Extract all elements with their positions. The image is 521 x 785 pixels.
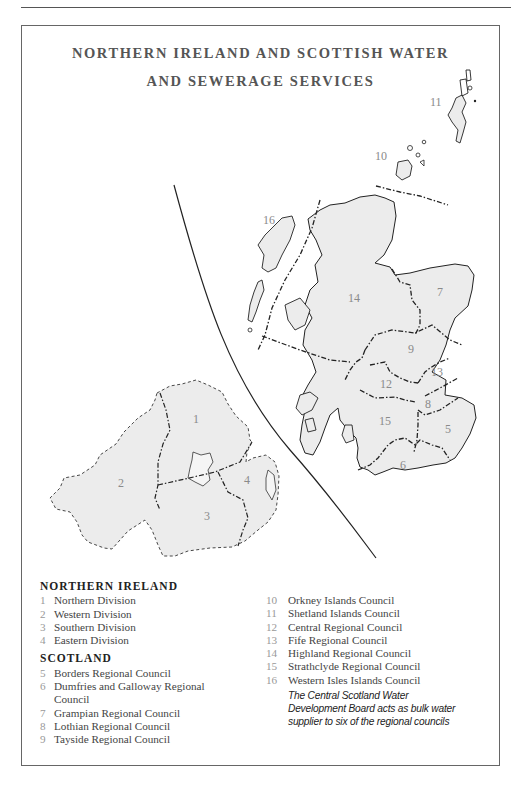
legend-item: 1Northern Division <box>40 594 270 607</box>
legend-item: 5Borders Regional Council <box>40 667 270 680</box>
legend-item: 3Southern Division <box>40 621 270 634</box>
legend-column-2: 10Orkney Islands Council 11Shetland Isla… <box>266 594 486 687</box>
legend-item: 12Central Regional Council <box>266 621 486 634</box>
region-label-13: 13 <box>431 365 443 379</box>
region-label-8: 8 <box>425 397 431 411</box>
region-label-12: 12 <box>380 377 392 391</box>
region-label-1: 1 <box>193 412 199 426</box>
unst <box>466 70 471 81</box>
region-label-10: 10 <box>375 149 387 163</box>
scotland-map <box>262 195 476 475</box>
legend-column-1: NORTHERN IRELAND 1Northern Division 2Wes… <box>40 580 270 747</box>
legend-item: 16Western Isles Islands Council <box>266 674 486 687</box>
yell <box>460 79 468 96</box>
region-label-15: 15 <box>379 414 391 428</box>
isle-arran <box>342 425 354 443</box>
region-label-5: 5 <box>445 422 451 436</box>
region-label-16: 16 <box>263 213 275 227</box>
region-label-2: 2 <box>118 476 124 490</box>
region-label-3: 3 <box>204 509 210 523</box>
region-label-4: 4 <box>244 473 250 487</box>
legend-item: 2Western Division <box>40 608 270 621</box>
legend-item: 6Dumfries and Galloway Regional Council <box>40 680 270 707</box>
northern-ireland-map <box>50 380 279 556</box>
shetland-mainland <box>448 95 466 143</box>
legend-item: 13Fife Regional Council <box>266 634 486 647</box>
region-label-7: 7 <box>437 285 443 299</box>
uist <box>248 280 264 322</box>
orkney-mainland <box>396 160 412 180</box>
legend-item: 9Tayside Regional Council <box>40 733 270 746</box>
region-label-11: 11 <box>430 95 442 109</box>
legend-item: 4Eastern Division <box>40 634 270 647</box>
legend-item: 15Strathclyde Regional Council <box>266 660 486 673</box>
legend-heading-scotland: SCOTLAND <box>40 652 270 665</box>
legend-note: The Central Scotland Water Development B… <box>288 690 458 728</box>
legend-item: 10Orkney Islands Council <box>266 594 486 607</box>
legend-item: 11Shetland Islands Council <box>266 607 486 620</box>
legend-item: 7Grampian Regional Council <box>40 707 270 720</box>
legend-item: 14Highland Regional Council <box>266 647 486 660</box>
region-label-14: 14 <box>348 291 360 305</box>
legend-heading-northern-ireland: NORTHERN IRELAND <box>40 580 270 593</box>
region-label-6: 6 <box>400 458 406 472</box>
region-label-9: 9 <box>408 342 414 356</box>
legend-item: 8Lothian Regional Council <box>40 720 270 733</box>
shetland-map <box>448 70 476 143</box>
